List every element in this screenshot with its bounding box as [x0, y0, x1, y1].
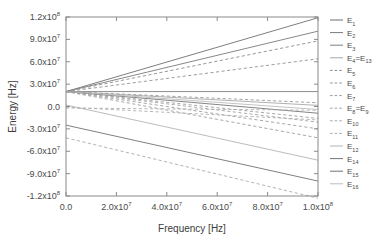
curve-E15: [66, 125, 318, 181]
y-tick-exponent-8: 8: [57, 190, 61, 196]
legend-label-E2: E2: [347, 29, 355, 40]
legend-extra-7: =E: [355, 104, 365, 113]
x-tick-label-3: 6.0x107: [202, 201, 233, 212]
x-tick-exponent-5: 8: [330, 201, 334, 207]
legend-label-E14: E14: [347, 155, 358, 166]
y-tick-label-6: -6.0x107: [27, 145, 61, 156]
curve-E8: [66, 92, 318, 119]
y-tick-label-1: 9.0x107: [30, 33, 61, 44]
y-tick-exponent-0: 8: [57, 11, 61, 17]
plot-canvas: 0.02.0x1074.0x1076.0x1078.0x1071.0x108 1…: [0, 0, 381, 247]
legend-label-E6: E6: [347, 79, 355, 90]
legend-label-E4: E4=E13: [347, 54, 372, 65]
legend-sub-12: 15: [352, 172, 358, 178]
legend-extra-sub-3: 13: [365, 58, 371, 64]
curve-E5: [66, 41, 318, 92]
y-tick-exponent-3: 7: [57, 78, 61, 84]
y-tick-mantissa-1: 9.0x10: [30, 34, 57, 44]
legend-extra-sub-7: 9: [365, 109, 368, 115]
y-tick-label-5: -3.0x107: [27, 123, 61, 134]
curve-E-mid-b: [66, 108, 318, 110]
curve-E4: [66, 92, 318, 106]
legend-layer: E1E2E3E4=E13E5E6E7E8=E9E10E11E12E14E15E1…: [330, 16, 372, 190]
legend-extra-3: =E: [355, 54, 365, 63]
curve-E1: [66, 18, 318, 92]
y-tick-mantissa-5: -3.0x10: [27, 124, 57, 134]
legend-label-E7: E7: [347, 92, 355, 103]
legend-label-E11: E11: [347, 129, 358, 140]
y-tick-label-8: -1.2x108: [27, 190, 61, 201]
x-tick-mantissa-1: 2.0x10: [101, 202, 128, 212]
legend-sub-5: 6: [352, 84, 355, 90]
legend-label-E10: E10: [347, 117, 358, 128]
x-tick-mantissa-0: 0.0: [60, 202, 73, 212]
y-tick-mantissa-6: -6.0x10: [27, 146, 57, 156]
legend-sub-0: 1: [352, 21, 355, 27]
legend-sub-8: 10: [352, 121, 358, 127]
legend-label-E15: E15: [347, 167, 358, 178]
x-tick-label-2: 4.0x107: [152, 201, 183, 212]
y-axis-title: Energy [Hz]: [7, 80, 18, 132]
y-tick-mantissa-2: 6.0x10: [30, 57, 57, 67]
legend-sub-13: 16: [352, 184, 358, 190]
y-tick-exponent-7: 7: [57, 168, 61, 174]
energy-frequency-figure: 0.02.0x1074.0x1076.0x1078.0x1071.0x108 1…: [0, 0, 381, 247]
curves-layer: [66, 18, 318, 198]
legend-sub-2: 3: [352, 46, 355, 52]
legend-label-E16: E16: [347, 180, 358, 191]
curve-E2: [66, 31, 318, 91]
legend-sub-6: 7: [352, 96, 355, 102]
legend-sub-9: 11: [352, 134, 358, 140]
curve-E16: [66, 92, 318, 110]
legend-sub-11: 14: [352, 159, 358, 165]
legend-sub-1: 2: [352, 33, 355, 39]
x-tick-label-5: 1.0x108: [303, 201, 334, 212]
x-tick-exponent-4: 7: [279, 201, 283, 207]
y-tick-mantissa-8: -1.2x10: [27, 191, 57, 201]
x-tick-mantissa-3: 6.0x10: [202, 202, 229, 212]
legend-label-E12: E12: [347, 142, 358, 153]
x-tick-label-4: 8.0x107: [252, 201, 283, 212]
legend-label-E5: E5: [347, 66, 355, 77]
x-tick-exponent-2: 7: [179, 201, 183, 207]
y-tick-exponent-1: 7: [57, 33, 61, 39]
y-tick-label-0: 1.2x108: [30, 11, 61, 22]
x-tick-exponent-3: 7: [229, 201, 233, 207]
x-tick-mantissa-4: 8.0x10: [252, 202, 279, 212]
legend-label-E8: E8=E9: [347, 104, 368, 115]
legend-label-E3: E3: [347, 41, 355, 52]
y-tick-mantissa-3: 3.0x10: [30, 79, 57, 89]
x-tick-mantissa-2: 4.0x10: [152, 202, 179, 212]
curve-E11: [66, 138, 318, 198]
y-tick-mantissa-0: 1.2x10: [30, 12, 57, 22]
y-tick-mantissa-4: 0.0: [47, 102, 60, 112]
legend-sub-10: 12: [352, 147, 358, 153]
legend-sub-4: 5: [352, 71, 355, 77]
x-tick-mantissa-5: 1.0x10: [303, 202, 330, 212]
y-tick-exponent-5: 7: [57, 123, 61, 129]
x-tick-label-0: 0.0: [60, 202, 73, 212]
y-tick-exponent-6: 7: [57, 145, 61, 151]
x-tick-label-1: 2.0x107: [101, 201, 132, 212]
y-tick-exponent-2: 7: [57, 56, 61, 62]
legend-label-E1: E1: [347, 16, 355, 27]
y-tick-label-4: 0.0: [47, 102, 60, 112]
y-tick-mantissa-7: -9.0x10: [27, 169, 57, 179]
y-tick-label-7: -9.0x107: [27, 168, 61, 179]
x-tick-exponent-1: 7: [128, 201, 132, 207]
curve-E6: [66, 59, 318, 92]
y-tick-label-3: 3.0x107: [30, 78, 61, 89]
x-axis-title: Frequency [Hz]: [158, 223, 226, 234]
y-tick-label-2: 6.0x107: [30, 56, 61, 67]
